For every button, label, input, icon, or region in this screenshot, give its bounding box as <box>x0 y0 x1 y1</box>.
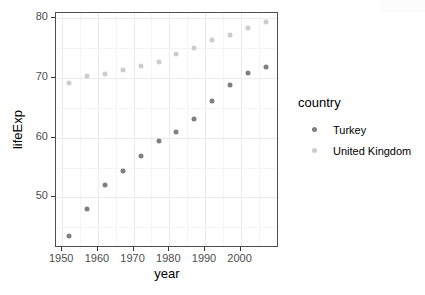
data-point <box>85 73 90 78</box>
legend-swatch-dot <box>312 148 317 153</box>
data-point <box>245 71 250 76</box>
legend-key-icon <box>306 127 323 132</box>
legend-item-label: Turkey <box>333 124 366 136</box>
scatter-plot-figure: lifeExp year 50607080 195019601970198019… <box>0 0 425 295</box>
data-point <box>103 71 108 76</box>
x-axis-tick-mark <box>61 247 62 251</box>
x-axis-tick-mark <box>97 247 98 251</box>
legend-items: TurkeyUnited Kingdom <box>298 119 423 161</box>
legend-swatch-dot <box>312 127 317 132</box>
x-axis-tick-mark <box>204 247 205 251</box>
x-axis-tick-label: 2000 <box>227 253 251 264</box>
data-point <box>227 33 232 38</box>
data-point <box>192 117 197 122</box>
data-point <box>192 46 197 51</box>
y-axis-tick-label: 80 <box>18 11 48 22</box>
legend-item[interactable]: United Kingdom <box>298 140 423 161</box>
data-point <box>67 233 72 238</box>
data-point <box>263 19 268 24</box>
data-point <box>138 64 143 69</box>
y-axis-tick-label: 60 <box>18 131 48 142</box>
data-point <box>156 59 161 64</box>
gridline-major-horizontal <box>56 138 277 139</box>
plot-panel <box>55 12 278 247</box>
gridline-minor-vertical <box>151 13 152 246</box>
data-point <box>138 153 143 158</box>
legend-item-label: United Kingdom <box>333 145 411 157</box>
data-point <box>210 99 215 104</box>
gridline-major-vertical <box>98 13 99 246</box>
data-point <box>227 83 232 88</box>
gridline-minor-vertical <box>116 13 117 246</box>
gridline-major-vertical <box>62 13 63 246</box>
x-axis-title: year <box>55 266 279 281</box>
data-point <box>245 25 250 30</box>
x-axis-tick-label: 1990 <box>192 253 216 264</box>
gridline-major-vertical <box>205 13 206 246</box>
gridline-major-vertical <box>134 13 135 246</box>
data-point <box>156 138 161 143</box>
gridline-major-vertical <box>169 13 170 246</box>
gridline-major-horizontal <box>56 78 277 79</box>
top-right-artifact <box>380 0 425 12</box>
gridline-minor-horizontal <box>56 227 277 228</box>
gridline-minor-vertical <box>223 13 224 246</box>
data-point <box>85 206 90 211</box>
gridline-minor-vertical <box>187 13 188 246</box>
gridline-minor-horizontal <box>56 168 277 169</box>
legend-title: country <box>298 95 423 110</box>
x-axis-tick-labels: 195019601970198019902000 <box>0 250 425 266</box>
x-axis-tick-mark <box>168 247 169 251</box>
gridline-minor-horizontal <box>56 108 277 109</box>
gridline-major-horizontal <box>56 18 277 19</box>
legend-key-icon <box>306 148 323 153</box>
gridline-major-vertical <box>241 13 242 246</box>
x-axis-tick-label: 1980 <box>156 253 180 264</box>
data-point <box>67 80 72 85</box>
gridline-minor-vertical <box>259 13 260 246</box>
data-point <box>120 169 125 174</box>
x-axis-tick-label: 1960 <box>85 253 109 264</box>
data-point <box>174 51 179 56</box>
data-point <box>174 129 179 134</box>
legend: country TurkeyUnited Kingdom <box>298 95 423 161</box>
gridline-minor-vertical <box>80 13 81 246</box>
gridline-minor-horizontal <box>56 48 277 49</box>
data-point <box>103 182 108 187</box>
data-point <box>263 65 268 70</box>
legend-item[interactable]: Turkey <box>298 119 423 140</box>
x-axis-tick-label: 1950 <box>49 253 73 264</box>
x-axis-tick-mark <box>133 247 134 251</box>
gridline-major-horizontal <box>56 197 277 198</box>
y-axis-tick-label: 50 <box>18 190 48 201</box>
x-axis-tick-mark <box>240 247 241 251</box>
data-point <box>210 37 215 42</box>
x-axis-tick-label: 1970 <box>120 253 144 264</box>
data-point <box>120 67 125 72</box>
y-axis-tick-label: 70 <box>18 71 48 82</box>
